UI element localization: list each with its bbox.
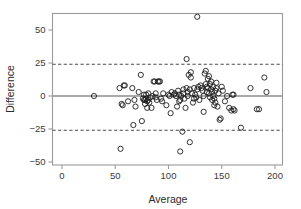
data-point	[184, 56, 189, 61]
y-tick-label: 0	[40, 90, 45, 101]
y-tick-label: −50	[29, 156, 45, 167]
data-point	[118, 146, 123, 151]
data-point	[201, 109, 206, 114]
x-tick-label: 150	[214, 170, 230, 181]
data-point	[161, 91, 166, 96]
data-point	[238, 125, 243, 130]
data-point	[130, 85, 135, 90]
data-point	[183, 105, 188, 110]
x-axis-ticks-group: 050100150200	[59, 165, 283, 181]
y-tick-label: 50	[35, 24, 46, 35]
data-point	[139, 118, 144, 123]
data-point	[125, 99, 130, 104]
x-tick-label: 50	[110, 170, 121, 181]
x-tick-label: 100	[161, 170, 177, 181]
bland-altman-plot-figure: 050100150200 −50−2502550 Average Differe…	[0, 0, 301, 209]
x-tick-label: 0	[59, 170, 64, 181]
data-point	[120, 103, 125, 108]
data-points-group	[91, 14, 269, 154]
data-point	[264, 89, 269, 94]
x-axis-title: Average	[149, 193, 188, 205]
data-point	[262, 75, 267, 80]
y-axis-title: Difference	[4, 65, 16, 113]
data-point	[222, 99, 227, 104]
scatter-plot-canvas: 050100150200 −50−2502550 Average Differe…	[0, 0, 301, 209]
data-point	[195, 14, 200, 19]
y-axis-ticks-group: −50−2502550	[29, 24, 52, 167]
data-point	[214, 80, 219, 85]
data-point	[178, 149, 183, 154]
data-point	[138, 72, 143, 77]
data-point	[131, 122, 136, 127]
data-point	[136, 89, 141, 94]
data-point	[168, 111, 173, 116]
data-point	[174, 104, 179, 109]
y-tick-label: −25	[29, 123, 45, 134]
data-point	[232, 108, 237, 113]
data-point	[133, 104, 138, 109]
y-tick-label: 25	[35, 57, 46, 68]
data-point	[132, 97, 137, 102]
data-point	[218, 116, 223, 121]
x-tick-label: 200	[267, 170, 283, 181]
data-point	[164, 103, 169, 108]
data-point	[248, 85, 253, 90]
data-point	[187, 140, 192, 145]
